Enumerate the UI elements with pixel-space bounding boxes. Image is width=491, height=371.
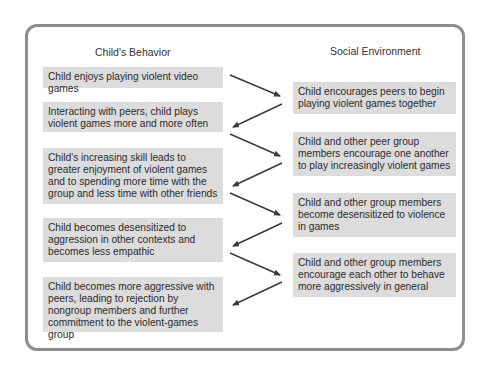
environment-box-3: Child and other group members become des… [293, 193, 456, 237]
behavior-box-5-text: Child becomes more aggressive with peers… [48, 281, 218, 341]
environment-box-4-text: Child and other group members encourage … [298, 257, 451, 293]
behavior-box-5: Child becomes more aggressive with peers… [43, 277, 223, 332]
behavior-box-4: Child becomes desensitized to aggression… [43, 218, 223, 262]
behavior-box-3-text: Child's increasing skill leads to greate… [48, 152, 218, 200]
right-column-title: Social Environment [330, 45, 420, 57]
left-column-title: Child's Behavior [95, 46, 171, 58]
behavior-box-4-text: Child becomes desensitized to aggression… [48, 222, 218, 258]
environment-box-2: Child and other peer group members encou… [293, 132, 456, 176]
behavior-box-3: Child's increasing skill leads to greate… [43, 148, 223, 204]
behavior-box-1: Child enjoys playing violent video games [43, 67, 223, 88]
behavior-box-2: Interacting with peers, child plays viol… [43, 102, 223, 132]
environment-box-3-text: Child and other group members become des… [298, 197, 451, 233]
behavior-box-2-text: Interacting with peers, child plays viol… [48, 106, 218, 130]
environment-box-1-text: Child encourages peers to begin playing … [298, 86, 451, 110]
environment-box-4: Child and other group members encourage … [293, 253, 456, 297]
behavior-box-1-text: Child enjoys playing violent video games [48, 71, 218, 95]
environment-box-2-text: Child and other peer group members encou… [298, 136, 451, 172]
environment-box-1: Child encourages peers to begin playing … [293, 82, 456, 114]
